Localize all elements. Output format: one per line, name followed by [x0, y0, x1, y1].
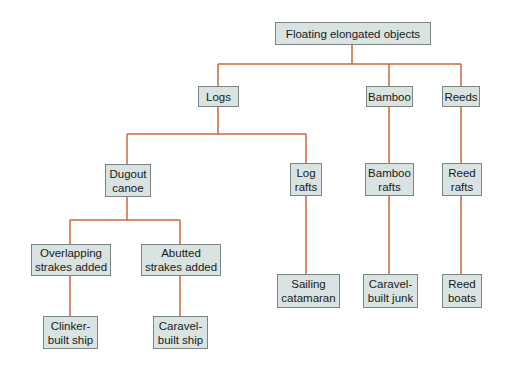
node-caravel-built-ship: Caravel- built ship — [153, 316, 208, 349]
node-reed-boats: Reed boats — [442, 274, 482, 308]
node-sailing-catamaran: Sailing catamaran — [277, 274, 340, 308]
node-dugout-canoe: Dugout canoe — [105, 164, 151, 197]
node-clinker-built-ship: Clinker- built ship — [43, 316, 98, 349]
node-caravel-built-junk: Caravel- built junk — [363, 274, 418, 308]
node-logs: Logs — [198, 86, 239, 107]
node-reed-rafts: Reed rafts — [442, 163, 482, 196]
node-reeds: Reeds — [442, 86, 480, 107]
node-bamboo: Bamboo — [366, 86, 413, 107]
node-abutted-strakes-added: Abutted strakes added — [141, 244, 221, 276]
node-overlapping-strakes-added: Overlapping strakes added — [31, 244, 111, 276]
node-floating-elongated-objects: Floating elongated objects — [275, 22, 431, 45]
node-log-rafts: Log rafts — [290, 163, 322, 196]
diagram-canvas: Floating elongated objects Logs Bamboo R… — [0, 0, 511, 372]
node-bamboo-rafts: Bamboo rafts — [365, 163, 414, 196]
